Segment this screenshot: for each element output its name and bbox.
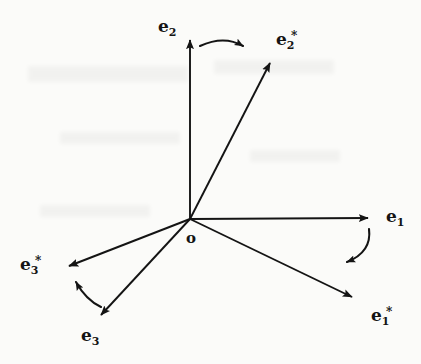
vector-diagram-canvas <box>0 0 421 364</box>
vector-label-e1: e1 <box>386 208 404 225</box>
vector-label-e3-star: e3* <box>20 256 41 273</box>
rotation-arc-e1-to-e1star <box>347 229 369 262</box>
vector-label-e3: e3 <box>81 327 99 344</box>
vector-e2-star <box>190 63 270 219</box>
vector-e3 <box>101 219 190 315</box>
vector-e3-star <box>69 219 190 266</box>
rotation-arc-e2-to-e2star <box>200 41 243 47</box>
vector-label-e2-star: e2* <box>276 31 297 48</box>
origin-label: o <box>186 229 196 247</box>
rotation-arc-e3-to-e3star <box>76 282 101 307</box>
vector-label-e1-star: e1* <box>371 307 392 324</box>
vector-e1-star <box>190 219 352 297</box>
vector-diagram-figure: o e1 e2 e3 e1* e2* e3* <box>0 0 421 364</box>
vector-label-e2: e2 <box>158 18 176 35</box>
vector-e1 <box>190 218 368 219</box>
